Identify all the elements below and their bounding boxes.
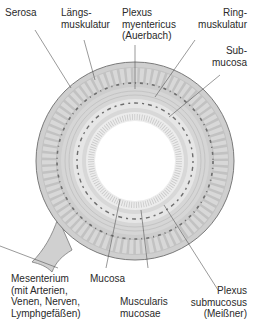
label-laengsmuskulatur: Längs- muskulatur xyxy=(61,7,110,30)
label-mesenterium: Mesenterium (mit Arterien, Venen, Nerven… xyxy=(11,273,81,319)
label-submucosa: Sub- mucosa xyxy=(212,45,247,68)
label-plexus-submucosus: Plexus submucosus (Meißner) xyxy=(191,285,247,320)
label-serosa: Serosa xyxy=(5,7,37,19)
lumen xyxy=(95,121,175,201)
label-mucosa: Mucosa xyxy=(90,273,125,285)
label-plexus-myentericus: Plexus myentericus (Auerbach) xyxy=(122,7,176,42)
label-muscularis-mucosae: Muscularis mucosae xyxy=(120,296,168,319)
label-ringmuskulatur: Ring- muskulatur xyxy=(198,7,247,30)
